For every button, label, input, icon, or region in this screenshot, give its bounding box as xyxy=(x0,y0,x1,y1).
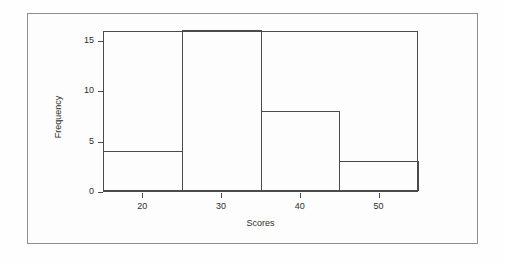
y-tick-mark xyxy=(98,41,103,42)
screenshot-root: 051015 20304050 Frequency Scores xyxy=(0,0,505,262)
y-tick-label: 10 xyxy=(60,86,94,95)
plot-area xyxy=(103,31,418,192)
x-tick-label: 50 xyxy=(364,201,394,211)
histogram-bar xyxy=(261,111,341,192)
y-tick-label: 15 xyxy=(60,36,94,45)
histogram-bar xyxy=(103,151,183,191)
y-tick-label: 5 xyxy=(60,137,94,146)
x-axis-title: Scores xyxy=(103,218,418,228)
x-tick-mark xyxy=(142,193,143,198)
y-tick-mark xyxy=(98,91,103,92)
x-tick-label: 40 xyxy=(285,201,315,211)
y-tick-mark xyxy=(98,142,103,143)
y-axis-title: Frequency xyxy=(52,72,64,162)
histogram-figure: 051015 20304050 Frequency Scores xyxy=(0,0,505,262)
y-tick-mark xyxy=(98,192,103,193)
x-tick-label: 20 xyxy=(127,201,157,211)
x-tick-mark xyxy=(221,193,222,198)
histogram-bar xyxy=(182,30,262,191)
y-tick-label: 0 xyxy=(60,187,94,196)
x-tick-label: 30 xyxy=(206,201,236,211)
x-tick-mark xyxy=(379,193,380,198)
x-tick-mark xyxy=(300,193,301,198)
histogram-bar xyxy=(339,161,419,191)
